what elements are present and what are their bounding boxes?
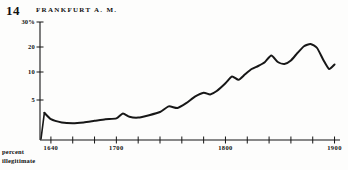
y-axis-tick-label: 20: [13, 43, 35, 50]
y-axis-caption-line1: percent: [2, 148, 35, 157]
y-axis-tick-label: 5: [13, 96, 35, 103]
y-axis-tick-label: 30%: [13, 18, 35, 25]
figure-panel: 14 FRANKFURT a. M. percent illegitimate …: [0, 0, 348, 170]
x-axis-tick-label: 1700: [101, 144, 131, 151]
x-axis-tick-label: 1900: [320, 144, 348, 151]
y-axis-caption: percent illegitimate: [2, 148, 35, 165]
x-axis-tick-label: 1800: [210, 144, 240, 151]
y-axis-tick-label: 10: [13, 68, 35, 75]
x-axis-tick-label: 1640: [36, 144, 66, 151]
y-axis-caption-line2: illegitimate: [2, 157, 35, 166]
